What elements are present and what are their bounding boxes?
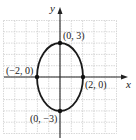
point-bottom bbox=[58, 109, 62, 113]
point-label-top: (0, 3) bbox=[63, 30, 85, 42]
ellipse-chart: x y (0, 3) (2, 0) (−2, 0) (0, −3) bbox=[0, 0, 136, 140]
point-top bbox=[58, 41, 62, 45]
x-axis: x bbox=[4, 75, 131, 91]
y-axis-label: y bbox=[49, 2, 55, 14]
point-left bbox=[35, 75, 39, 79]
point-label-bottom: (0, −3) bbox=[30, 113, 57, 125]
point-label-right: (2, 0) bbox=[85, 79, 107, 91]
y-axis-arrow-icon bbox=[58, 7, 63, 14]
x-axis-label: x bbox=[125, 78, 131, 90]
point-label-left: (−2, 0) bbox=[6, 65, 33, 77]
